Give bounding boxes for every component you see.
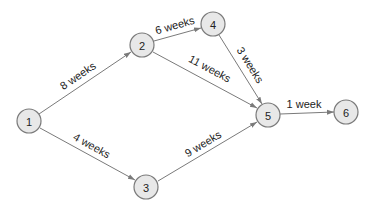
node-1: 1 <box>17 109 41 133</box>
node-label: 1 <box>26 116 32 128</box>
node-label: 4 <box>210 19 216 31</box>
edge-label-4-5: 3 weeks <box>235 45 267 86</box>
edge-label-5-6: 1 week <box>287 98 322 110</box>
project-network-diagram: 8 weeks 4 weeks 6 weeks 11 weeks 3 weeks… <box>0 0 374 213</box>
node-6: 6 <box>334 100 358 124</box>
edge-label-2-5: 11 weeks <box>187 52 233 84</box>
node-5: 5 <box>256 103 280 127</box>
edge-5-6: 1 week <box>280 98 334 114</box>
node-3: 3 <box>134 175 158 199</box>
node-label: 2 <box>139 40 145 52</box>
edge-label-2-4: 6 weeks <box>154 14 197 37</box>
node-label: 3 <box>143 182 149 194</box>
edge-1-3: 4 weeks <box>40 128 135 180</box>
edge-2-4: 6 weeks <box>154 14 201 41</box>
node-label: 5 <box>265 110 271 122</box>
node-label: 6 <box>343 107 349 119</box>
edge-line <box>39 52 131 114</box>
edge-line <box>280 112 334 114</box>
edge-1-2: 8 weeks <box>39 52 131 114</box>
node-2: 2 <box>130 33 154 57</box>
node-4: 4 <box>201 12 225 36</box>
edge-3-5: 9 weeks <box>158 122 257 181</box>
edge-line <box>158 122 257 181</box>
edge-label-1-2: 8 weeks <box>58 59 99 92</box>
